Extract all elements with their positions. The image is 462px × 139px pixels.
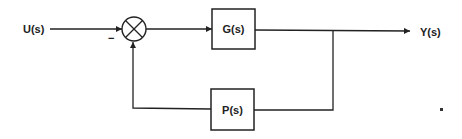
stray-dot-mark — [440, 108, 443, 111]
forward-block-g: G(s) — [212, 9, 255, 49]
output-label: Y(s) — [420, 26, 441, 38]
summing-junction-icon — [122, 17, 146, 41]
block-diagram: U(s) − G(s) Y(s) P(s) — [0, 0, 462, 139]
feedback-block-label: P(s) — [222, 104, 243, 116]
feedback-path-left — [133, 42, 211, 109]
feedback-block-p: P(s) — [211, 89, 254, 130]
forward-block-label: G(s) — [223, 23, 245, 35]
feedback-path-right — [254, 31, 333, 110]
input-label: U(s) — [23, 23, 45, 35]
output-signal-line — [255, 30, 410, 31]
minus-sign: − — [108, 32, 114, 44]
